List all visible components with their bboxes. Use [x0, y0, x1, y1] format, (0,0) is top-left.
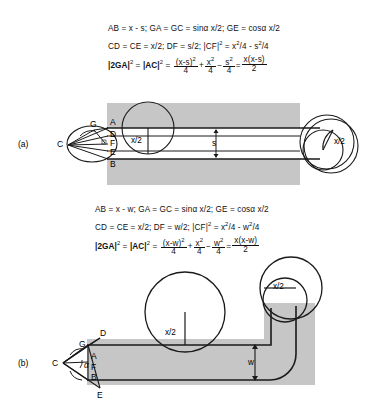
angle-arc-alpha-b — [80, 360, 82, 368]
material-region-b — [87, 303, 315, 385]
angle-label-alpha-b: α — [84, 361, 89, 370]
panel-b-label: (b) — [18, 358, 28, 368]
radius-label-b-mid: x/2 — [165, 328, 176, 337]
geometry-figure: AB = x - s; GA = GC = sinα x/2; GE = cos… — [0, 0, 384, 418]
point-label-b-E: E — [97, 391, 103, 400]
point-label-b-C: C — [52, 359, 58, 368]
dim-label-w-b: w — [248, 358, 254, 367]
radius-label-b-corner: x/2 — [273, 282, 284, 291]
point-label-b-G: G — [79, 340, 86, 349]
ray-c-to-g-b — [63, 348, 84, 363]
point-label-b-A: A — [91, 352, 97, 361]
point-label-b-B: B — [91, 373, 97, 382]
panel-b-diagram — [0, 0, 384, 418]
point-label-b-F: F — [91, 363, 96, 372]
point-label-b-D: D — [100, 329, 106, 338]
